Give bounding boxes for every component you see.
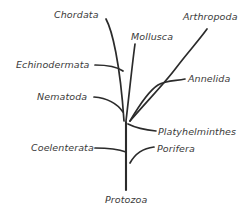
- branch-porifera: [130, 147, 154, 163]
- taxon-label-porifera: Porifera: [157, 143, 195, 154]
- taxon-label-coelenterata: Coelenterata: [31, 142, 94, 153]
- branch-platyhelminthes: [128, 124, 156, 131]
- taxon-label-annelida: Annelida: [188, 73, 230, 84]
- taxon-label-chordata: Chordata: [54, 9, 99, 20]
- branch-mollusca: [126, 44, 135, 121]
- branch-coelenterata: [95, 148, 126, 152]
- taxon-label-protozoa: Protozoa: [105, 194, 147, 205]
- branch-annelida: [130, 79, 185, 121]
- taxon-label-arthropoda: Arthropoda: [183, 11, 238, 22]
- tree-branches-svg: [0, 0, 251, 215]
- phylogenetic-tree-diagram: Chordata Mollusca Arthropoda Echinoderma…: [0, 0, 251, 215]
- branch-nematoda: [94, 97, 123, 112]
- taxon-label-platyhelminthes: Platyhelminthes: [158, 126, 236, 137]
- taxon-label-nematoda: Nematoda: [37, 91, 87, 102]
- taxon-label-echinodermata: Echinodermata: [16, 59, 89, 70]
- taxon-label-mollusca: Mollusca: [131, 31, 173, 42]
